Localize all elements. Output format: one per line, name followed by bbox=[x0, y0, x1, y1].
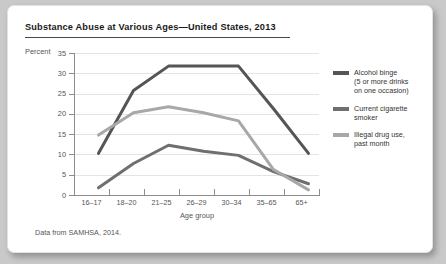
x-axis-tick-label: 65+ bbox=[282, 198, 322, 207]
legend-swatch-icon bbox=[333, 107, 349, 111]
title-divider bbox=[25, 37, 290, 38]
gridline bbox=[74, 175, 319, 176]
y-axis-tick-label: 25 bbox=[44, 89, 66, 98]
legend-swatch-icon bbox=[333, 133, 349, 137]
legend-item: Illegal drug use, past month bbox=[333, 130, 433, 148]
y-axis-tick bbox=[69, 195, 74, 196]
y-axis-tick-label: 0 bbox=[44, 191, 66, 200]
gridline bbox=[74, 134, 319, 135]
x-axis-tick bbox=[144, 189, 145, 195]
y-axis-tick-label: 10 bbox=[44, 150, 66, 159]
y-axis-tick bbox=[69, 134, 74, 135]
y-axis-tick bbox=[69, 154, 74, 155]
gridline bbox=[74, 53, 319, 54]
x-axis-tick-label: 26–29 bbox=[177, 198, 217, 207]
legend-item: Alcohol binge (5 or more drinks on one o… bbox=[333, 68, 433, 96]
y-axis-tick bbox=[69, 94, 74, 95]
chart-card: Substance Abuse at Various Ages—United S… bbox=[7, 5, 433, 253]
gridline bbox=[74, 73, 319, 74]
y-axis-tick-label: 5 bbox=[44, 170, 66, 179]
legend-swatch-icon bbox=[333, 71, 349, 75]
gridline bbox=[74, 154, 319, 155]
x-axis-tick bbox=[214, 189, 215, 195]
x-axis-tick bbox=[319, 189, 320, 195]
legend-label: Alcohol binge (5 or more drinks on one o… bbox=[354, 68, 433, 96]
chart-title: Substance Abuse at Various Ages—United S… bbox=[25, 22, 276, 32]
legend-item: Current cigarette smoker bbox=[333, 104, 433, 122]
x-axis-tick-label: 21–25 bbox=[142, 198, 182, 207]
y-axis-tick bbox=[69, 114, 74, 115]
x-axis-tick-label: 18–20 bbox=[107, 198, 147, 207]
x-axis-title: Age group bbox=[74, 211, 320, 220]
x-axis-tick bbox=[284, 189, 285, 195]
gridline bbox=[74, 114, 319, 115]
x-axis-tick bbox=[179, 189, 180, 195]
y-axis-tick bbox=[69, 175, 74, 176]
plot-area bbox=[74, 53, 319, 195]
x-axis-tick bbox=[74, 189, 75, 195]
chart-legend: Alcohol binge (5 or more drinks on one o… bbox=[333, 68, 433, 156]
y-axis-tick bbox=[69, 73, 74, 74]
x-axis-tick-label: 35–65 bbox=[247, 198, 287, 207]
y-axis-tick-label: 35 bbox=[44, 49, 66, 58]
x-axis-tick-label: 30–34 bbox=[212, 198, 252, 207]
x-axis-tick bbox=[109, 189, 110, 195]
legend-label: Illegal drug use, past month bbox=[354, 130, 433, 148]
x-axis-tick-label: 16–17 bbox=[72, 198, 112, 207]
legend-label: Current cigarette smoker bbox=[354, 104, 433, 122]
y-axis-tick-label: 15 bbox=[44, 130, 66, 139]
y-axis-tick-label: 30 bbox=[44, 69, 66, 78]
y-axis-tick bbox=[69, 53, 74, 54]
gridline bbox=[74, 94, 319, 95]
chart-source-note: Data from SAMHSA, 2014. bbox=[35, 228, 121, 237]
y-axis-tick-label: 20 bbox=[44, 109, 66, 118]
x-axis-line bbox=[74, 195, 320, 196]
y-axis-line bbox=[74, 53, 75, 196]
x-axis-tick bbox=[249, 189, 250, 195]
